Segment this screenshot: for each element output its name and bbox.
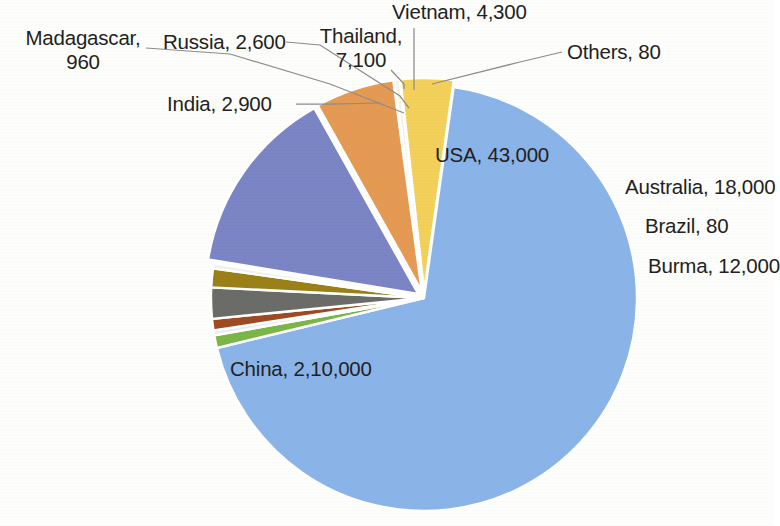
slice-label-thailand-line1: Thailand, — [320, 24, 403, 47]
slice-label-thailand-line2: 7,100 — [336, 48, 386, 71]
slice-label-vietnam: Vietnam, 4,300 — [392, 0, 527, 24]
pie-slices — [208, 78, 637, 511]
leader-line-others — [432, 52, 562, 84]
slice-label-russia: Russia, 2,600 — [163, 30, 286, 54]
slice-label-usa: USA, 43,000 — [435, 143, 549, 167]
slice-label-thailand: Thailand,7,100 — [313, 24, 409, 72]
slice-label-madagascar-line1: Madagascar, — [25, 26, 140, 49]
slice-label-others: Others, 80 — [567, 40, 661, 64]
slice-label-madagascar: Madagascar,960 — [2, 26, 164, 74]
slice-label-brazil: Brazil, 80 — [645, 214, 728, 238]
slice-label-china: China, 2,10,000 — [230, 357, 372, 381]
slice-label-australia: Australia, 18,000 — [625, 175, 775, 199]
slice-label-india: India, 2,900 — [167, 92, 272, 116]
slice-label-madagascar-line2: 960 — [66, 50, 100, 73]
slice-label-burma: Burma, 12,000 — [648, 254, 780, 278]
